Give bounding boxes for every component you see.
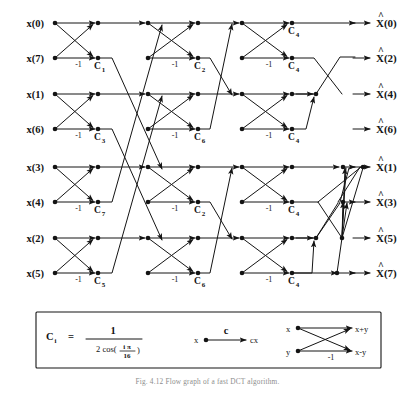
s3-minus-one-2: -1: [266, 204, 273, 213]
out-cross-1to2: [292, 58, 342, 94]
s3-cross-down-1: [242, 94, 287, 128]
coef-C4-5: C4: [288, 205, 300, 218]
coef-C2-a: C2: [194, 61, 206, 74]
s2-node-bot-2: [196, 200, 201, 205]
s2-minus-one-2: -1: [172, 204, 179, 213]
legend-denom-suffix: ): [137, 345, 140, 355]
s3-in-bot-1: [240, 127, 245, 132]
perm2-jog-1: [198, 58, 232, 95]
coef-C6-a: C6: [194, 132, 206, 145]
s1-node-bot-2: [96, 200, 101, 205]
input-node-4: [53, 165, 58, 170]
s1-cross-down-1: [55, 94, 93, 128]
s2-in-bot-2: [146, 200, 151, 205]
s2-node-bot-3: [196, 271, 201, 276]
perm-long-1: [98, 58, 162, 169]
input-label-7: x(5): [27, 268, 45, 280]
s3-node-top-3: [290, 236, 295, 241]
coef-C4-1: C4: [288, 61, 300, 74]
s1-node-top-3: [96, 236, 101, 241]
s2-node-top-3: [196, 236, 201, 241]
s3-node-top-0: [290, 21, 295, 26]
s2-in-top-3: [146, 236, 151, 241]
legend-equals: =: [68, 331, 74, 342]
s3-cross-up-1: [242, 96, 287, 130]
coef-C4-0: C4: [288, 26, 300, 39]
s1-minus-one-0: -1: [75, 60, 82, 69]
s1-cross-up-0: [55, 25, 93, 59]
coef-C4-3: C4: [288, 132, 300, 145]
s1-minus-one-2: -1: [75, 204, 82, 213]
legend-denom-num: i π: [123, 343, 131, 351]
output-label-7: X(7): [376, 267, 397, 280]
output-label-3: X(6): [376, 123, 397, 136]
legend-bf-out-bottom: x-y: [355, 347, 367, 357]
s2-in-bot-1: [146, 127, 151, 132]
out-bh-5down: [292, 202, 342, 238]
out-bh-7up: [292, 241, 314, 273]
s2-cross-down-2: [148, 167, 193, 201]
legend-denom-prefix: 2 cos(: [96, 344, 117, 354]
legend-numerator: 1: [110, 325, 115, 336]
s1-minus-one-3: -1: [75, 275, 82, 284]
s2-in-top-1: [146, 92, 151, 97]
input-label-2: x(1): [27, 89, 45, 101]
input-label-4: x(3): [27, 162, 45, 174]
s2-cross-up-0: [148, 25, 193, 59]
s2-minus-one-0: -1: [172, 60, 179, 69]
input-label-6: x(2): [27, 233, 45, 245]
out-node-4: [341, 165, 346, 170]
out-node-mid-bot: [340, 236, 345, 241]
input-node-7: [53, 271, 58, 276]
s3-node-top-1: [290, 92, 295, 97]
s1-cross-down-2: [55, 167, 93, 201]
s3-in-bot-2: [240, 200, 245, 205]
s2-cross-up-2: [148, 169, 193, 203]
s1-node-top-0: [96, 21, 101, 26]
input-node-3: [53, 127, 58, 132]
legend-denom-den: 16: [124, 352, 132, 360]
s3-cross-down-2: [242, 167, 287, 201]
out-bh-diag-g: [338, 167, 360, 202]
s1-cross-down-0: [55, 23, 93, 57]
s3-in-bot-0: [240, 56, 245, 61]
legend-bf-cross-down: [298, 328, 350, 350]
legend-formula-lhs: Ci: [46, 331, 56, 345]
out-feed-3up: [292, 97, 314, 129]
s3-node-top-2: [290, 165, 295, 170]
coef-C6-b: C6: [194, 276, 206, 289]
perm-long-7: [98, 96, 162, 273]
input-label-0: x(0): [27, 18, 45, 30]
figure-caption: Fig. 4.12 Flow graph of a fast DCT algor…: [0, 377, 415, 386]
s3-node-bot-1: [290, 127, 295, 132]
output-label-4: X(1): [376, 161, 397, 174]
s1-cross-up-1: [55, 96, 93, 130]
coef-C4-7: C4: [288, 276, 300, 289]
input-label-5: x(4): [27, 197, 45, 209]
output-label-5: X(3): [376, 196, 397, 209]
out-node-7: [335, 271, 340, 276]
s2-minus-one-1: -1: [172, 131, 179, 140]
perm-long-5: [98, 25, 162, 202]
s3-cross-down-0: [242, 23, 287, 57]
legend-gain-input: x: [194, 335, 199, 345]
s2-in-top-2: [146, 165, 151, 170]
output-label-6: X(5): [376, 232, 397, 245]
legend-bf-in-top: x: [286, 324, 291, 334]
s2-in-bot-3: [146, 271, 151, 276]
legend-bf-node-top: [296, 326, 301, 331]
input-node-2: [53, 92, 58, 97]
legend-gain-coef: c: [224, 325, 229, 336]
s2-cross-up-3: [148, 240, 193, 274]
s1-cross-up-3: [55, 240, 93, 274]
s1-node-bot-1: [96, 127, 101, 132]
figure-canvas: x(0)x(7)x(1)x(6)x(3)x(4)x(2)x(5)^X(0)^X(…: [0, 0, 415, 393]
s3-cross-up-3: [242, 240, 287, 274]
s3-cross-down-3: [242, 238, 287, 272]
s3-in-top-0: [240, 21, 245, 26]
legend-bf-cross-up: [298, 329, 350, 351]
coef-C2-b: C2: [194, 205, 206, 218]
out-node-4b: [361, 165, 366, 170]
perm2-jog-3: [198, 24, 232, 129]
perm2-jog-7: [198, 168, 232, 273]
